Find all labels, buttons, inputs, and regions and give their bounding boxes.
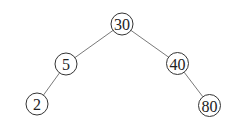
- tree-edge-40-80: [184, 72, 203, 97]
- tree-edge-30-5: [75, 30, 113, 57]
- node-label: 40: [170, 56, 186, 73]
- node-label: 2: [33, 96, 41, 113]
- tree-node-80: 80: [199, 95, 221, 117]
- tree-edge-30-40: [131, 30, 169, 57]
- node-label: 30: [114, 16, 130, 33]
- tree-node-30: 30: [111, 13, 133, 35]
- tree-edge-5-2: [43, 73, 59, 95]
- tree-node-40: 40: [167, 53, 189, 75]
- tree-node-2: 2: [26, 93, 48, 115]
- tree-node-5: 5: [55, 53, 77, 75]
- tree-nodes: 30540280: [26, 13, 221, 117]
- node-label: 80: [202, 98, 218, 115]
- binary-tree-diagram: 30540280: [0, 0, 237, 125]
- node-label: 5: [62, 56, 70, 73]
